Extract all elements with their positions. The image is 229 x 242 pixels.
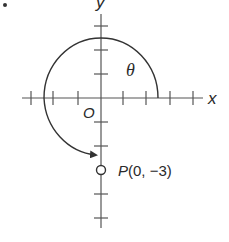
point-p-label: P(0, −3): [118, 162, 172, 179]
angle-theta-label: θ: [126, 60, 135, 80]
origin-label: O: [83, 104, 95, 121]
y-axis-label: y: [95, 0, 106, 12]
point-p-marker: [97, 166, 106, 175]
point-p-coords: (0, −3): [128, 162, 172, 179]
x-axis-label: x: [207, 89, 217, 108]
coordinate-diagram: y x O θ P(0, −3): [0, 0, 229, 242]
figure-number-fragment: [3, 3, 7, 7]
